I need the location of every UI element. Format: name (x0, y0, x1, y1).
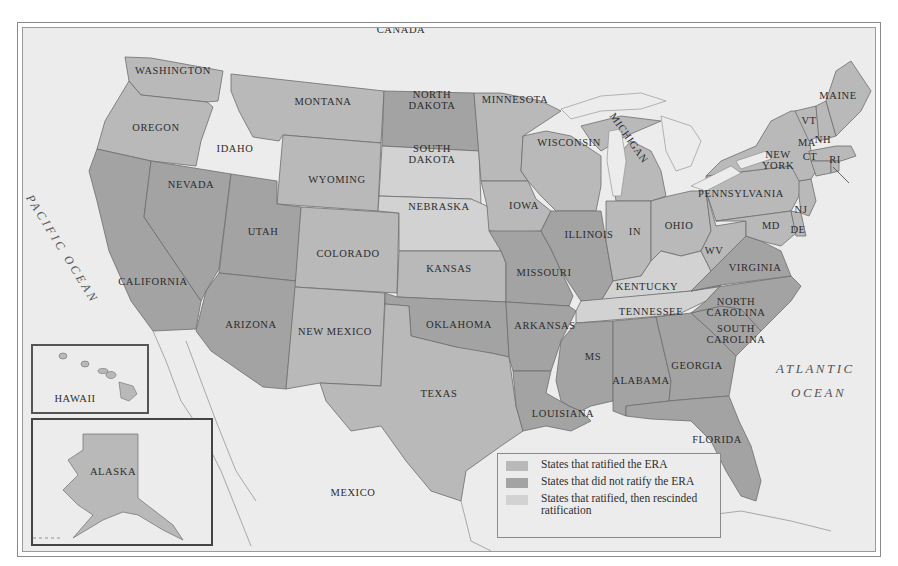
legend-label-ratified: States that ratified the ERA (541, 459, 667, 471)
label-new-york-line-1: NEW (765, 149, 791, 160)
label-arkansas: ARKANSAS (514, 320, 575, 331)
label-indiana: IN (629, 226, 641, 237)
label-iowa: IOWA (509, 200, 539, 211)
label-nebraska: NEBRASKA (408, 201, 469, 212)
label-texas: TEXAS (421, 388, 458, 399)
legend-label-not-ratified: States that did not ratify the ERA (541, 476, 694, 488)
label-kentucky: KENTUCKY (616, 281, 679, 292)
legend-item-ratified: States that ratified the ERA (506, 459, 720, 471)
label-hawaii: HAWAII (54, 393, 95, 404)
legend-item-not-ratified: States that did not ratify the ERA (506, 476, 720, 488)
label-south-dakota-line-2: DAKOTA (408, 154, 455, 165)
label-new-york: NEWYORK (762, 149, 794, 171)
label-washington: WASHINGTON (135, 65, 211, 76)
label-north-carolina-line-2: CAROLINA (706, 307, 765, 318)
label-kansas: KANSAS (426, 263, 472, 274)
label-north-dakota-line-1: NORTH (413, 89, 452, 100)
label-connecticut: CT (803, 151, 818, 162)
label-colorado: COLORADO (316, 248, 379, 259)
label-new-mexico: NEW MEXICO (298, 326, 372, 337)
state-kansas (397, 251, 506, 302)
label-maine: MAINE (819, 90, 856, 101)
label-tennessee: TENNESSEE (619, 306, 683, 317)
label-north-dakota: NORTHDAKOTA (408, 89, 455, 111)
label-louisiana: LOUISIANA (532, 408, 595, 419)
mexico-east-coast (461, 501, 491, 551)
label-oklahoma: OKLAHOMA (426, 319, 492, 330)
label-south-carolina-line-1: SOUTH (717, 323, 755, 334)
label-south-dakota: SOUTHDAKOTA (408, 143, 455, 165)
label-idaho: IDAHO (217, 143, 254, 154)
legend-swatch-ratified (506, 461, 528, 471)
label-georgia: GEORGIA (671, 360, 722, 371)
label-montana: MONTANA (294, 96, 351, 107)
label-utah: UTAH (248, 226, 279, 237)
alaska-shape (33, 420, 211, 544)
label-delaware: DE (790, 224, 805, 235)
label-atlantic-ocean-2: OCEAN (791, 385, 846, 401)
label-north-carolina-line-1: NORTH (717, 296, 756, 307)
hawaii-inset: HAWAII (31, 344, 149, 414)
alaska-inset: ALASKA (31, 418, 213, 546)
map-legend: States that ratified the ERA States that… (497, 453, 721, 538)
label-wyoming: WYOMING (308, 174, 365, 185)
label-new-york-line-2: YORK (762, 160, 794, 171)
label-south-carolina: SOUTHCAROLINA (706, 323, 765, 345)
label-vermont: VT (801, 115, 816, 126)
label-mexico: MEXICO (330, 487, 375, 498)
label-west-virginia: WV (705, 245, 724, 256)
legend-swatch-rescinded (506, 495, 528, 505)
label-nevada: NEVADA (168, 179, 215, 190)
label-new-hampshire: NH (815, 134, 831, 145)
label-virginia: VIRGINIA (729, 262, 782, 273)
label-south-carolina-line-2: CAROLINA (706, 334, 765, 345)
label-massachusetts-area: MA (798, 137, 816, 148)
label-wisconsin: WISCONSIN (537, 137, 601, 148)
label-ohio: OHIO (665, 220, 694, 231)
state-arizona (196, 273, 296, 389)
label-alaska: ALASKA (90, 466, 136, 477)
label-illinois: ILLINOIS (564, 229, 613, 240)
label-atlantic-ocean-1: ATLANTIC (776, 361, 855, 377)
label-maryland: MD (762, 220, 780, 231)
label-south-dakota-line-1: SOUTH (413, 143, 451, 154)
label-california: CALIFORNIA (118, 276, 188, 287)
state-montana (231, 74, 384, 143)
legend-label-rescinded: States that ratified, then rescinded rat… (541, 493, 720, 516)
label-oregon: OREGON (132, 122, 179, 133)
label-new-jersey: NJ (795, 204, 808, 215)
map-canvas: HAWAII ALASKA CANADA MEXICO PACIFIC OCEA… (22, 27, 876, 552)
legend-item-rescinded: States that ratified, then rescinded rat… (506, 493, 720, 516)
legend-swatch-not-ratified (506, 478, 528, 488)
state-new-mexico (286, 287, 385, 389)
label-missouri: MISSOURI (517, 267, 572, 278)
lake-huron (661, 116, 701, 171)
label-north-carolina: NORTHCAROLINA (706, 296, 765, 318)
label-pennsylvania: PENNSYLVANIA (698, 188, 784, 199)
label-alabama: ALABAMA (612, 375, 669, 386)
label-arizona: ARIZONA (225, 319, 276, 330)
label-north-dakota-line-2: DAKOTA (408, 100, 455, 111)
label-minnesota: MINNESOTA (482, 94, 548, 105)
state-indiana (606, 201, 651, 281)
label-massachusetts: MA (798, 137, 816, 148)
label-rhode-island: RI (829, 154, 841, 165)
label-florida: FLORIDA (692, 434, 742, 445)
label-mississippi: MS (585, 351, 601, 362)
label-canada: CANADA (377, 27, 426, 35)
